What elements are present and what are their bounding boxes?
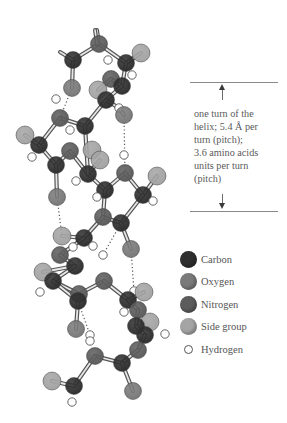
carbon-atom bbox=[77, 118, 94, 135]
arrow-up-icon bbox=[222, 86, 223, 100]
hydrogen-atom bbox=[36, 288, 44, 296]
legend-item-nitrogen: Nitrogen bbox=[180, 293, 247, 316]
atoms bbox=[16, 36, 169, 407]
side-group-atom bbox=[91, 151, 109, 169]
hydrogen-atom bbox=[86, 337, 94, 345]
pitch-text-line: one turn of the bbox=[194, 107, 280, 120]
hydrogen-atom bbox=[52, 95, 60, 103]
carbon-atom bbox=[137, 327, 154, 344]
nitrogen-atom bbox=[91, 36, 108, 53]
legend-label: Side group bbox=[201, 321, 247, 332]
legend-label: Nitrogen bbox=[201, 299, 238, 310]
hydrogen-atom bbox=[28, 153, 36, 161]
oxygen-atom bbox=[68, 321, 85, 338]
oxygen-atom bbox=[123, 241, 140, 258]
hydrogen-atom bbox=[120, 151, 128, 159]
legend-item-side-group: Side group bbox=[180, 316, 247, 339]
oxygen-atom bbox=[116, 107, 133, 124]
side-group-atom bbox=[132, 44, 150, 62]
hydrogen-atom bbox=[104, 56, 112, 64]
carbon-atom bbox=[65, 52, 82, 69]
legend-label: Carbon bbox=[201, 254, 232, 265]
hydrogen-atom bbox=[120, 308, 128, 316]
side-group-atom-icon bbox=[180, 318, 197, 335]
arrow-down-icon bbox=[222, 194, 223, 207]
hydrogen-atom-icon bbox=[184, 345, 193, 354]
carbon-atom bbox=[45, 273, 62, 290]
side-group-atom bbox=[53, 227, 71, 245]
carbon-atom-icon bbox=[180, 251, 197, 268]
hydrogen-atom bbox=[99, 251, 107, 259]
nitrogen-atom-icon bbox=[180, 296, 197, 313]
carbon-atom bbox=[70, 293, 87, 310]
carbon-atom bbox=[98, 92, 115, 109]
hydrogen-atom bbox=[161, 330, 169, 338]
pitch-bottom-line bbox=[190, 211, 278, 212]
nitrogen-atom bbox=[130, 342, 147, 359]
carbon-atom bbox=[67, 258, 84, 275]
legend-item-hydrogen: Hydrogen bbox=[180, 338, 247, 361]
nitrogen-atom bbox=[52, 110, 69, 127]
hydrogen-atom bbox=[68, 398, 76, 406]
pitch-text-line: turn (pitch); bbox=[194, 133, 280, 146]
nitrogen-atom bbox=[96, 273, 113, 290]
nitrogen-atom bbox=[95, 209, 112, 226]
hydrogen-atom bbox=[93, 193, 101, 201]
oxygen-atom bbox=[49, 189, 66, 206]
legend-item-carbon: Carbon bbox=[180, 248, 247, 271]
pitch-top-line bbox=[190, 82, 278, 83]
hydrogen-atom bbox=[72, 177, 80, 185]
carbon-atom bbox=[114, 355, 131, 372]
carbon-atom bbox=[114, 78, 131, 95]
carbon-atom bbox=[48, 157, 65, 174]
hydrogen-atom bbox=[69, 243, 77, 251]
hydrogen-atom bbox=[128, 71, 136, 79]
pitch-text-line: units per turn bbox=[194, 159, 280, 172]
side-group-atom bbox=[43, 372, 61, 390]
nitrogen-atom bbox=[52, 247, 69, 264]
legend-item-oxygen: Oxygen bbox=[180, 271, 247, 294]
atom-legend: Carbon Oxygen Nitrogen Side group Hydrog… bbox=[180, 248, 247, 361]
helix-pitch-annotation: one turn of the helix; 5.4 Å per turn (p… bbox=[190, 82, 278, 212]
carbon-atom bbox=[113, 215, 130, 232]
nitrogen-atom bbox=[62, 143, 79, 160]
oxygen-atom bbox=[125, 383, 142, 400]
pitch-text-line: 3.6 amino acids bbox=[194, 146, 280, 159]
oxygen-atom bbox=[64, 80, 81, 97]
legend-label: Oxygen bbox=[201, 276, 234, 287]
nitrogen-atom bbox=[87, 348, 104, 365]
carbon-atom bbox=[118, 55, 135, 72]
carbon-atom bbox=[31, 137, 48, 154]
side-group-atom bbox=[135, 283, 153, 301]
hydrogen-atom bbox=[149, 197, 157, 205]
pitch-text-line: (pitch) bbox=[194, 172, 280, 185]
legend-label: Hydrogen bbox=[201, 344, 243, 355]
hydrogen-atom bbox=[66, 126, 74, 134]
hydrogen-atom bbox=[89, 242, 97, 250]
pitch-text-line: helix; 5.4 Å per bbox=[194, 120, 280, 133]
carbon-atom bbox=[80, 166, 97, 183]
nitrogen-atom bbox=[117, 165, 134, 182]
pitch-description: one turn of the helix; 5.4 Å per turn (p… bbox=[194, 107, 280, 185]
oxygen-atom-icon bbox=[180, 273, 197, 290]
carbon-atom bbox=[66, 378, 83, 395]
side-group-atom bbox=[148, 167, 166, 185]
